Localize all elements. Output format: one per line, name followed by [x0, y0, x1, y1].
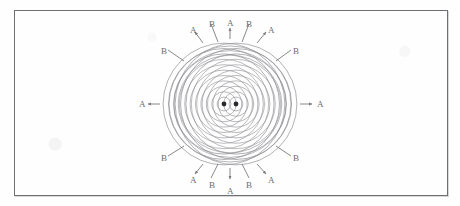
- label-a-bottom-center: A: [227, 187, 234, 196]
- label-b-lower-left: B: [161, 154, 167, 163]
- leader-b-lower-left: [168, 146, 184, 156]
- wavefront-envelope: [169, 46, 291, 162]
- label-b-bottom-left-inner: B: [209, 181, 215, 190]
- leader-b-bottom-right-inner: [242, 164, 249, 178]
- label-b-top-left-inner: B: [209, 20, 215, 29]
- label-a-bottom-left-outer: A: [190, 176, 197, 185]
- arrow-a-bottom-right-outer: [257, 164, 266, 174]
- leader-b-bottom-left-inner: [211, 164, 218, 178]
- wavefront-envelope: [178, 55, 282, 153]
- label-a-top-right-outer: A: [268, 26, 275, 35]
- label-a-top-left-outer: A: [190, 26, 197, 35]
- label-a-bottom-right-outer: A: [268, 176, 275, 185]
- wave-pattern-stage: [0, 0, 460, 206]
- interference-diagram: [0, 0, 460, 206]
- leader-b-upper-left: [168, 50, 184, 61]
- leader-b-lower-right: [276, 146, 291, 156]
- wave-sources: [222, 102, 239, 107]
- label-b-lower-right: B: [293, 154, 299, 163]
- leader-b-upper-right: [276, 50, 291, 61]
- arrow-a-bottom-left-outer: [195, 164, 203, 174]
- source-right: [234, 102, 239, 107]
- label-b-upper-left: B: [161, 47, 167, 56]
- label-a-right: A: [317, 100, 324, 109]
- label-b-bottom-right-inner: B: [246, 181, 252, 190]
- source-left: [222, 102, 227, 107]
- label-b-upper-right: B: [293, 47, 299, 56]
- label-a-left: A: [139, 100, 146, 109]
- arrow-a-top-right-outer: [257, 32, 266, 43]
- label-a-top-center: A: [227, 19, 234, 28]
- label-b-top-right-inner: B: [246, 20, 252, 29]
- figure-root: ABABABBAABBABABA: [0, 0, 460, 206]
